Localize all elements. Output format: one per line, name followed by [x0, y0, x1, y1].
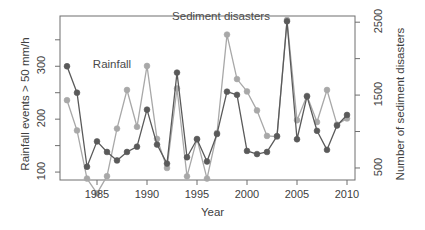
data-point-rainfall — [254, 151, 260, 157]
data-point-rainfall — [84, 164, 90, 170]
x-axis-tick-label: 2005 — [277, 188, 317, 200]
data-point-rainfall — [194, 136, 200, 142]
y-axis-left-tick-label: 100 — [35, 154, 47, 188]
data-point-sediment — [84, 176, 90, 182]
x-axis-tick-label: 2000 — [227, 188, 267, 200]
data-point-rainfall — [124, 149, 130, 155]
data-point-rainfall — [74, 90, 80, 96]
y-axis-left-title: Rainfall events > 50 mm/h — [19, 19, 31, 189]
data-point-sediment — [204, 176, 210, 182]
data-point-sediment — [244, 89, 250, 95]
y-axis-left-tick-label: 200 — [35, 101, 47, 135]
data-point-sediment — [224, 32, 230, 38]
data-point-rainfall — [344, 112, 350, 118]
y-axis-right-tick-label: 500 — [372, 150, 384, 184]
x-axis-tick-label: 1985 — [77, 188, 117, 200]
chart-figure: Rainfall events > 50 mm/h Number of sedi… — [0, 0, 425, 230]
annotation-rainfall: Rainfall — [93, 58, 131, 70]
data-point-rainfall — [184, 154, 190, 160]
data-point-rainfall — [204, 159, 210, 165]
data-point-sediment — [324, 87, 330, 93]
data-point-rainfall — [144, 107, 150, 113]
y-axis-right-tick-label: 2500 — [372, 4, 384, 38]
data-point-rainfall — [94, 138, 100, 144]
data-point-rainfall — [324, 147, 330, 153]
data-point-rainfall — [304, 94, 310, 100]
x-axis-tick-label: 1990 — [127, 188, 167, 200]
data-point-rainfall — [294, 136, 300, 142]
data-point-sediment — [184, 173, 190, 179]
data-point-rainfall — [284, 18, 290, 24]
data-point-rainfall — [334, 123, 340, 129]
data-point-sediment — [64, 97, 70, 103]
data-point-rainfall — [224, 89, 230, 95]
data-point-rainfall — [234, 92, 240, 98]
data-point-rainfall — [274, 133, 280, 139]
annotation-sediment-disasters: Sediment disasters — [172, 10, 270, 22]
data-point-sediment — [134, 124, 140, 130]
data-point-sediment — [254, 107, 260, 113]
data-point-rainfall — [134, 144, 140, 150]
data-point-rainfall — [114, 158, 120, 164]
data-point-rainfall — [104, 149, 110, 155]
data-point-rainfall — [314, 128, 320, 134]
data-point-sediment — [74, 128, 80, 134]
data-point-rainfall — [214, 131, 220, 137]
x-axis-title: Year — [0, 206, 425, 218]
x-axis-tick-label: 1995 — [177, 188, 217, 200]
data-point-rainfall — [244, 148, 250, 154]
x-axis-tick-label: 2010 — [327, 188, 367, 200]
data-point-rainfall — [264, 149, 270, 155]
data-point-sediment — [114, 126, 120, 132]
y-axis-left-tick-label: 300 — [35, 48, 47, 82]
data-point-sediment — [144, 63, 150, 69]
data-point-sediment — [104, 173, 110, 179]
data-point-rainfall — [174, 70, 180, 76]
y-axis-right-tick-label: 1500 — [372, 77, 384, 111]
data-point-rainfall — [64, 63, 70, 69]
plot-frame — [60, 16, 355, 180]
y-axis-right-title: Number of sediment disasters — [394, 19, 406, 189]
data-point-sediment — [264, 133, 270, 139]
data-point-sediment — [234, 76, 240, 82]
data-point-sediment — [124, 87, 130, 93]
data-point-rainfall — [154, 142, 160, 148]
data-point-rainfall — [164, 161, 170, 167]
